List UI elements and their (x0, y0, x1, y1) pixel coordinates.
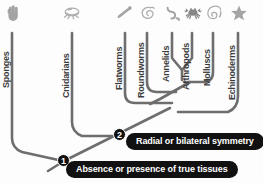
jellyfish-icon (61, 4, 83, 24)
snail-shell-icon (203, 4, 225, 24)
branch-sponges (12, 33, 63, 161)
flatworm-icon (115, 4, 137, 24)
phylogenetic-tree-figure: Sponges Cnidarians Flatworms Roundworms … (0, 0, 263, 183)
banner-true-tissues: Absence or presence of true tissues (66, 161, 238, 178)
banner-radial-bilateral-symmetry: Radial or bilateral symmetry (126, 133, 263, 150)
tip-label-molluscs: Molluscs (202, 49, 212, 86)
tip-label-echinoderms: Echinoderms (227, 45, 237, 100)
tree-branches (0, 0, 263, 183)
tip-label-flatworms: Flatworms (114, 47, 124, 90)
starfish-icon (228, 4, 250, 24)
crab-icon (182, 3, 204, 23)
annelid-icon (162, 4, 184, 24)
tip-label-arthropods: Arthropods (181, 43, 191, 90)
tip-label-sponges: Sponges (1, 51, 11, 88)
tip-label-cnidarians: Cnidarians (61, 53, 71, 98)
branch-cnidarians (72, 33, 112, 136)
tip-label-roundworms: Roundworms (136, 43, 146, 99)
roundworm-icon (137, 4, 159, 24)
tip-label-annelids: Annelids (161, 46, 171, 82)
sponge-icon (2, 4, 24, 24)
node-marker-2: 2 (113, 128, 126, 141)
